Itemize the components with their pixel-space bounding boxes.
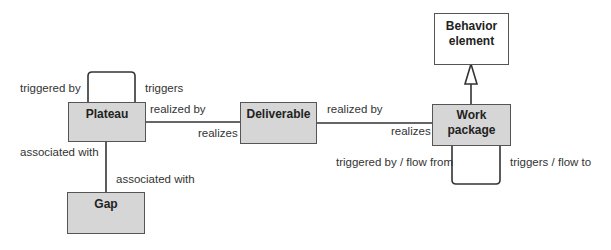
plateau-realized-by-label: realized by (150, 103, 206, 115)
deliverable-realized-by-label: realized by (327, 103, 383, 115)
work-package-label-line2: package (433, 123, 510, 138)
behavior-element-label-line2: element (435, 34, 508, 49)
gap-label: Gap (68, 193, 144, 212)
gap-node[interactable]: Gap (67, 192, 145, 234)
work-package-node[interactable]: Work package (432, 104, 511, 146)
deliverable-node[interactable]: Deliverable (240, 102, 317, 144)
behavior-element-label-line1: Behavior (435, 19, 508, 34)
plateau-label: Plateau (69, 103, 145, 122)
specialization-arrowhead-icon (465, 64, 477, 84)
gap-associated-with-label: associated with (116, 173, 195, 185)
diagram-canvas: Plateau Gap Deliverable Work package Beh… (0, 0, 611, 250)
deliverable-realizes-label: realizes (198, 127, 238, 139)
plateau-triggered-by-label: triggered by (20, 82, 81, 94)
work-package-triggers-flow-to-label: triggers / flow to (510, 156, 591, 168)
plateau-associated-with-label: associated with (20, 146, 99, 158)
deliverable-label: Deliverable (241, 103, 316, 122)
work-package-triggered-by-flow-from-label: triggered by / flow from (336, 156, 453, 168)
work-package-realizes-label: realizes (391, 125, 431, 137)
workpackage-self-loop-edge[interactable] (452, 145, 500, 184)
behavior-element-node[interactable]: Behavior element (434, 13, 509, 65)
work-package-label-line1: Work (433, 108, 510, 123)
plateau-self-loop-edge[interactable] (88, 72, 135, 102)
plateau-node[interactable]: Plateau (68, 102, 146, 142)
plateau-triggers-label: triggers (145, 82, 183, 94)
